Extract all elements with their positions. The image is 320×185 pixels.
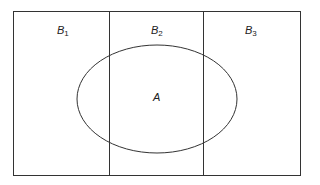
partition-label-b1: B1 (57, 25, 69, 38)
partition-label-b2: B2 (151, 25, 163, 38)
event-label-a: A (153, 92, 160, 103)
partition-label-b3: B3 (245, 25, 257, 38)
